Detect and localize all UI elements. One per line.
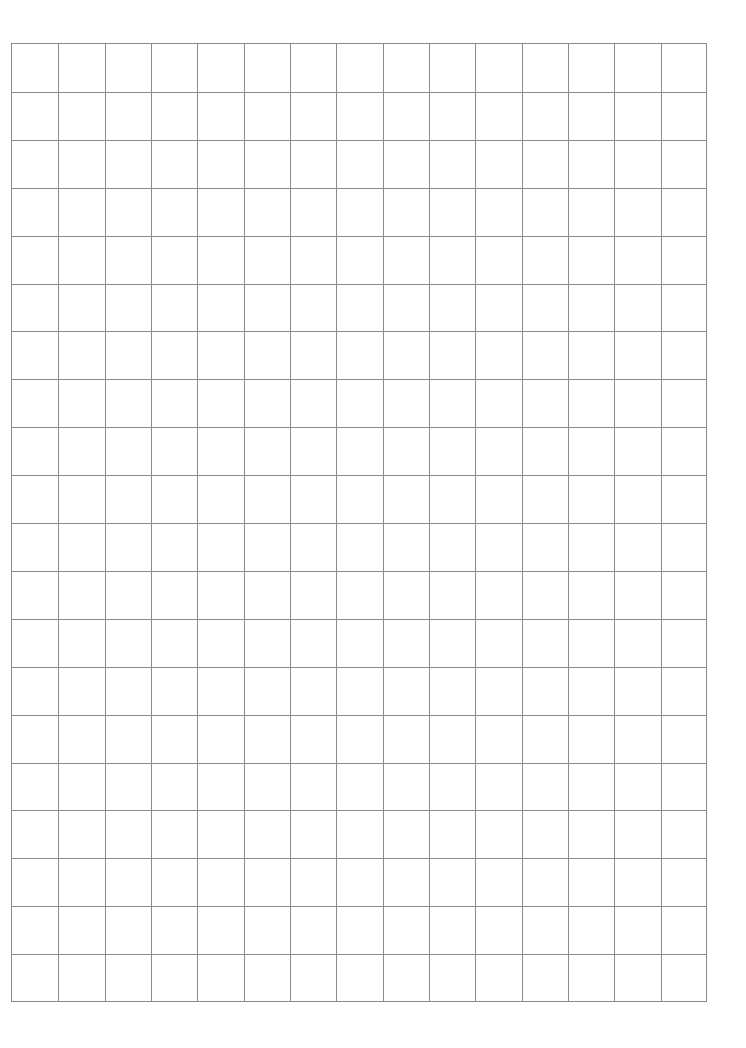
grid-horizontal-line (12, 140, 706, 141)
grid-horizontal-line (12, 571, 706, 572)
grid-horizontal-line (12, 379, 706, 380)
grid-horizontal-line (12, 619, 706, 620)
grid-horizontal-line (12, 954, 706, 955)
grid-horizontal-line (12, 715, 706, 716)
grid-horizontal-line (12, 236, 706, 237)
grid-horizontal-line (12, 858, 706, 859)
grid-horizontal-line (12, 667, 706, 668)
grid-horizontal-line (12, 810, 706, 811)
grid-horizontal-line (12, 475, 706, 476)
grid-horizontal-line (12, 188, 706, 189)
grid-horizontal-line (12, 763, 706, 764)
grid-horizontal-line (12, 331, 706, 332)
grid-horizontal-line (12, 906, 706, 907)
grid-horizontal-line (12, 427, 706, 428)
graph-paper-grid (11, 43, 707, 1002)
grid-horizontal-line (12, 523, 706, 524)
grid-horizontal-line (12, 92, 706, 93)
grid-horizontal-line (12, 284, 706, 285)
